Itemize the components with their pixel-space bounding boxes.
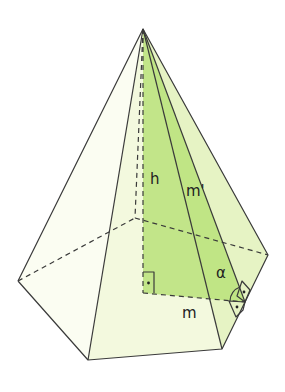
- right-angle-dot-foot-1: [243, 291, 246, 294]
- pyramid-diagram: h m' m α: [0, 0, 285, 392]
- label-slant-height: m': [186, 182, 205, 200]
- label-angle-alpha: α: [216, 264, 226, 282]
- label-height: h: [150, 170, 160, 188]
- label-apothem: m: [182, 304, 197, 322]
- right-angle-dot-center: [147, 282, 150, 285]
- right-angle-dot-foot-2: [236, 306, 239, 309]
